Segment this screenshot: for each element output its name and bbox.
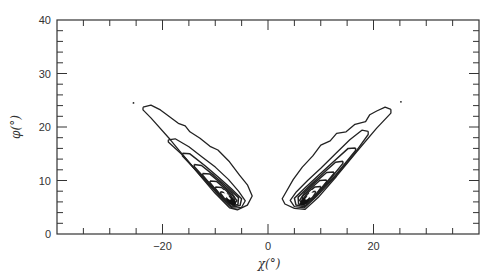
- y-tick-label: 20: [39, 121, 51, 133]
- contour-lines: [143, 105, 391, 210]
- y-tick-label: 40: [39, 14, 51, 26]
- contour-chart: −20020010203040 χ(°) φ(°): [0, 0, 491, 279]
- plot-frame: [57, 20, 479, 234]
- tick-labels: −20020010203040: [39, 14, 380, 252]
- x-tick-label: −20: [153, 240, 172, 252]
- data-point: [133, 102, 135, 104]
- data-points: [133, 101, 402, 104]
- data-point: [400, 101, 402, 103]
- x-axis-label: χ(°): [257, 257, 281, 271]
- y-axis-label: φ(°): [9, 115, 23, 139]
- y-tick-label: 10: [39, 175, 51, 187]
- x-tick-label: 20: [367, 240, 379, 252]
- x-tick-label: 0: [265, 240, 271, 252]
- y-tick-label: 30: [39, 68, 51, 80]
- plot-axes: [57, 20, 479, 234]
- contour-lobe-right: [282, 107, 391, 209]
- y-tick-label: 0: [45, 228, 51, 240]
- contour-lobe-left: [143, 105, 252, 210]
